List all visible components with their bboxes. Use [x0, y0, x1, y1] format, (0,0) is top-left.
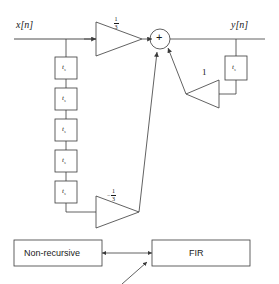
figure-canvas: x[n] y[n] 1 3 − 1 3 1 + ts ts ts: [0, 0, 279, 284]
feedback-delay-block: [225, 56, 247, 80]
delayed-gain-to-adder-wire: [139, 52, 157, 212]
adder-plus-symbol: +: [156, 32, 162, 43]
output-signal-label: y[n]: [231, 20, 248, 30]
forward-gain-label: 1 3: [113, 10, 119, 30]
delay-block-5-label: ts: [62, 188, 66, 197]
delay-block-4: [55, 150, 77, 172]
feedback-gain-label: 1: [202, 68, 207, 77]
delayed-gain-denominator: 3: [111, 195, 116, 202]
forward-gain-denominator: 3: [114, 23, 119, 30]
delay-block-1: [55, 57, 77, 79]
delay-block-1-label: ts: [62, 64, 66, 73]
delayed-gain-triangle: [96, 196, 139, 228]
feedback-delay-sub: s: [234, 67, 236, 72]
forward-gain-triangle: [96, 22, 142, 56]
feedback-delay-block-label: ts: [232, 64, 236, 73]
feedback-gain-triangle: [186, 80, 219, 108]
delay-4-sub: s: [64, 160, 66, 165]
delay-block-3: [55, 119, 77, 141]
delay-block-2-label: ts: [62, 95, 66, 104]
delay-2-sub: s: [64, 98, 66, 103]
fir-box-label: FIR: [189, 248, 204, 258]
delay-5-sub: s: [64, 191, 66, 196]
feedback-gain-to-adder-wire: [168, 48, 186, 94]
non-recursive-box-label: Non-recursive: [24, 248, 80, 258]
delay-block-2: [55, 88, 77, 110]
delayed-gain-sign: −: [107, 192, 110, 198]
delay-block-3-label: ts: [62, 126, 66, 135]
input-signal-label: x[n]: [16, 20, 33, 30]
delay-3-sub: s: [64, 129, 66, 134]
delay-1-sub: s: [64, 67, 66, 72]
block-diagram-svg: [0, 0, 279, 284]
delay-block-4-label: ts: [62, 157, 66, 166]
delay-block-5: [55, 181, 77, 203]
callout-arrow: [122, 262, 147, 284]
delayed-gain-label: − 1 3: [107, 184, 116, 202]
